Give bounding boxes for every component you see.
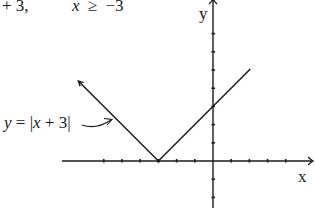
piecewise-condition: x ≥ −3 [71,0,123,15]
function-annotation: y = |x + 3| [2,113,71,132]
condition-op: ≥ [88,0,97,15]
y-axis-label: y [199,4,208,23]
annotation-suffix: + 3| [41,113,71,132]
function-graph: + 3, x ≥ −3 x y y = |x + 3| [0,0,315,208]
piecewise-fragment-left: + 3, [2,0,29,15]
annotation-y: y [2,113,12,132]
condition-var: x [71,0,80,15]
function-line [78,69,250,161]
condition-val: −3 [105,0,123,15]
vertex-point [157,159,160,162]
annotation-curved-arrow [82,120,111,127]
axes [62,0,313,208]
x-axis-label: x [298,167,307,186]
annotation-eq: = | [12,113,34,132]
series-group [78,69,250,163]
